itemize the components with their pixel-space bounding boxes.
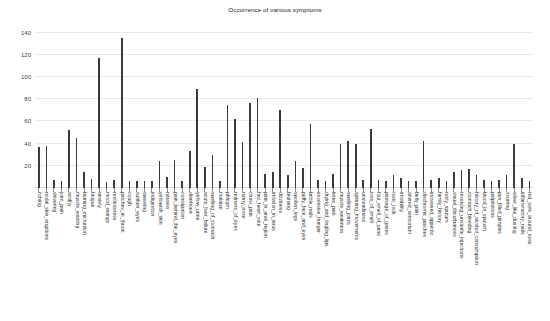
bar	[446, 181, 448, 188]
x-label-cell: altered_sensorium	[405, 192, 413, 321]
bar	[136, 181, 138, 188]
x-label-cell: rusty_sputum	[443, 192, 451, 321]
x-tick-label: anxiety	[97, 192, 102, 208]
x-label-cell: nodal_skin_eruptions	[43, 192, 51, 321]
x-label-cell: restlessness	[110, 192, 118, 321]
x-tick-label: patches_in_throat	[119, 192, 124, 233]
bar	[521, 178, 523, 188]
bar	[513, 144, 515, 188]
x-tick-label: indigestion	[149, 192, 154, 216]
x-label-cell: drying_and_tingling_lips	[322, 192, 330, 321]
bar	[204, 167, 206, 188]
bar	[287, 175, 289, 188]
x-label-cell: shivering	[50, 192, 58, 321]
x-label-cell: swollen_legs	[292, 192, 300, 321]
x-label-cell: sunken_eyes	[133, 192, 141, 321]
bar	[310, 124, 312, 188]
bar	[121, 38, 123, 188]
x-tick-label: joint_pain	[59, 192, 64, 214]
bar-item	[216, 27, 224, 188]
bar-item	[518, 27, 526, 188]
x-tick-label: scurring	[504, 192, 509, 210]
bar-item	[503, 27, 511, 188]
x-label-cell: acidity	[65, 192, 73, 321]
x-label-cell: fast_heart_rate	[254, 192, 262, 321]
x-tick-label: fatigue	[89, 192, 94, 207]
x-tick-label: altered_sensorium	[406, 192, 411, 234]
x-tick-label: nausea	[165, 192, 170, 209]
x-tick-label: dizziness	[278, 192, 283, 213]
bar	[249, 103, 251, 188]
x-label-cell: excessive_hunger	[314, 192, 322, 321]
bar	[325, 181, 327, 188]
bar-item	[488, 27, 496, 188]
x-tick-label: receiving_unsterile_injections	[459, 192, 464, 259]
bar	[295, 161, 297, 188]
bar	[453, 172, 455, 188]
bar-item	[405, 27, 413, 188]
x-tick-label: visual_disturbances	[451, 192, 456, 237]
x-tick-label: stomach_bleeding	[466, 192, 471, 233]
bar	[370, 129, 372, 188]
x-label-cell: family_history	[435, 192, 443, 321]
bar	[279, 110, 281, 188]
bar	[53, 180, 55, 188]
x-label-cell: patches_in_throat	[118, 192, 126, 321]
bar	[159, 161, 161, 188]
bar	[166, 177, 168, 188]
bar-series	[35, 27, 533, 188]
x-tick-label: unsteadiness	[361, 192, 366, 222]
x-tick-label: dischromic_patches	[421, 192, 426, 237]
x-label-cell: swelling_joints	[344, 192, 352, 321]
x-label-cell: runny_nose	[239, 192, 247, 321]
x-tick-label: red_sore_around_nose	[527, 192, 532, 245]
bar-item	[360, 27, 368, 188]
bar-item	[126, 27, 134, 188]
x-label-cell: puffy_face_and_eyes	[299, 192, 307, 321]
chart-canvas: Occurrence of various symptoms 204060801…	[0, 0, 550, 321]
bar	[144, 181, 146, 188]
x-tick-label: muscle_wasting	[74, 192, 79, 228]
y-tick-label: 140	[21, 30, 31, 36]
bar	[476, 175, 478, 188]
bar-item	[427, 27, 435, 188]
x-label-cell: increased_appetite	[427, 192, 435, 321]
bar	[98, 58, 100, 188]
x-tick-label: foul_smell_of_urine	[376, 192, 381, 236]
bar	[46, 146, 48, 188]
bar-item	[269, 27, 277, 188]
x-label-cell: inflammatory_nails	[518, 192, 526, 321]
x-tick-label: belly_pain	[414, 192, 419, 215]
x-tick-label: malaise	[217, 192, 222, 210]
bar	[83, 172, 85, 188]
x-label-cell: cough	[126, 192, 134, 321]
x-tick-label: swelling_joints	[346, 192, 351, 225]
bar	[340, 144, 342, 188]
bar-item	[171, 27, 179, 188]
x-label-cell: muscle_wasting	[73, 192, 81, 321]
x-tick-label: phlegm	[225, 192, 230, 209]
x-label-cell: phlegm	[224, 192, 232, 321]
bar	[242, 142, 244, 188]
x-label-cell: unsteadiness	[360, 192, 368, 321]
x-label-cell: fatigue	[88, 192, 96, 321]
x-label-cell: sweating	[141, 192, 149, 321]
x-tick-label: chest_pain	[248, 192, 253, 217]
bar-item	[382, 27, 390, 188]
bar-item	[73, 27, 81, 188]
bar	[423, 141, 425, 188]
bar	[91, 179, 93, 188]
bar-item	[458, 27, 466, 188]
x-label-cell: knee_pain	[329, 192, 337, 321]
bar-item	[156, 27, 164, 188]
bar-item	[284, 27, 292, 188]
bar-item	[58, 27, 66, 188]
x-tick-label: inflammatory_nails	[519, 192, 524, 234]
bar	[212, 155, 214, 188]
x-label-cell: brittle_nails	[307, 192, 315, 321]
bar	[385, 181, 387, 188]
x-label-cell: yellowish_skin	[156, 192, 164, 321]
x-label-cell: toxic_look	[390, 192, 398, 321]
x-label-cell: scurring	[503, 192, 511, 321]
x-tick-label: yellowish_skin	[157, 192, 162, 225]
